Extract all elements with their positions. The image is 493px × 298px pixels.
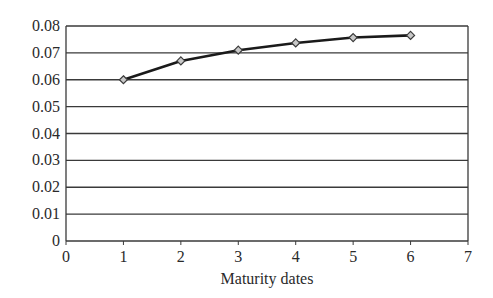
data-point-diamond	[407, 31, 415, 39]
x-axis-label: Maturity dates	[221, 270, 314, 288]
y-tick-label: 0.06	[32, 71, 60, 88]
x-tick-label: 5	[349, 248, 357, 265]
data-point-diamond	[177, 57, 185, 65]
y-tick-label: 0.04	[32, 125, 60, 142]
data-point-diamond	[349, 34, 357, 42]
y-tick-label: 0.05	[32, 98, 60, 115]
y-tick-label: 0.08	[32, 17, 60, 34]
y-axis-ticks: 00.010.020.030.040.050.060.070.08	[32, 17, 60, 249]
x-tick-label: 7	[464, 248, 472, 265]
y-tick-label: 0.07	[32, 44, 60, 61]
gridlines	[66, 26, 468, 241]
line-chart: 00.010.020.030.040.050.060.070.08 012345…	[0, 0, 493, 298]
series-line	[123, 35, 410, 79]
x-tick-label: 3	[234, 248, 242, 265]
y-tick-label: 0	[52, 232, 60, 249]
y-tick-label: 0.02	[32, 178, 60, 195]
data-point-diamond	[119, 76, 127, 84]
data-point-diamond	[292, 39, 300, 47]
x-axis-ticks: 01234567	[62, 241, 472, 265]
x-tick-label: 6	[407, 248, 415, 265]
x-tick-label: 1	[119, 248, 127, 265]
y-tick-label: 0.01	[32, 205, 60, 222]
x-tick-label: 2	[177, 248, 185, 265]
x-tick-label: 0	[62, 248, 70, 265]
series-group	[119, 31, 414, 83]
y-tick-label: 0.03	[32, 151, 60, 168]
x-tick-label: 4	[292, 248, 300, 265]
